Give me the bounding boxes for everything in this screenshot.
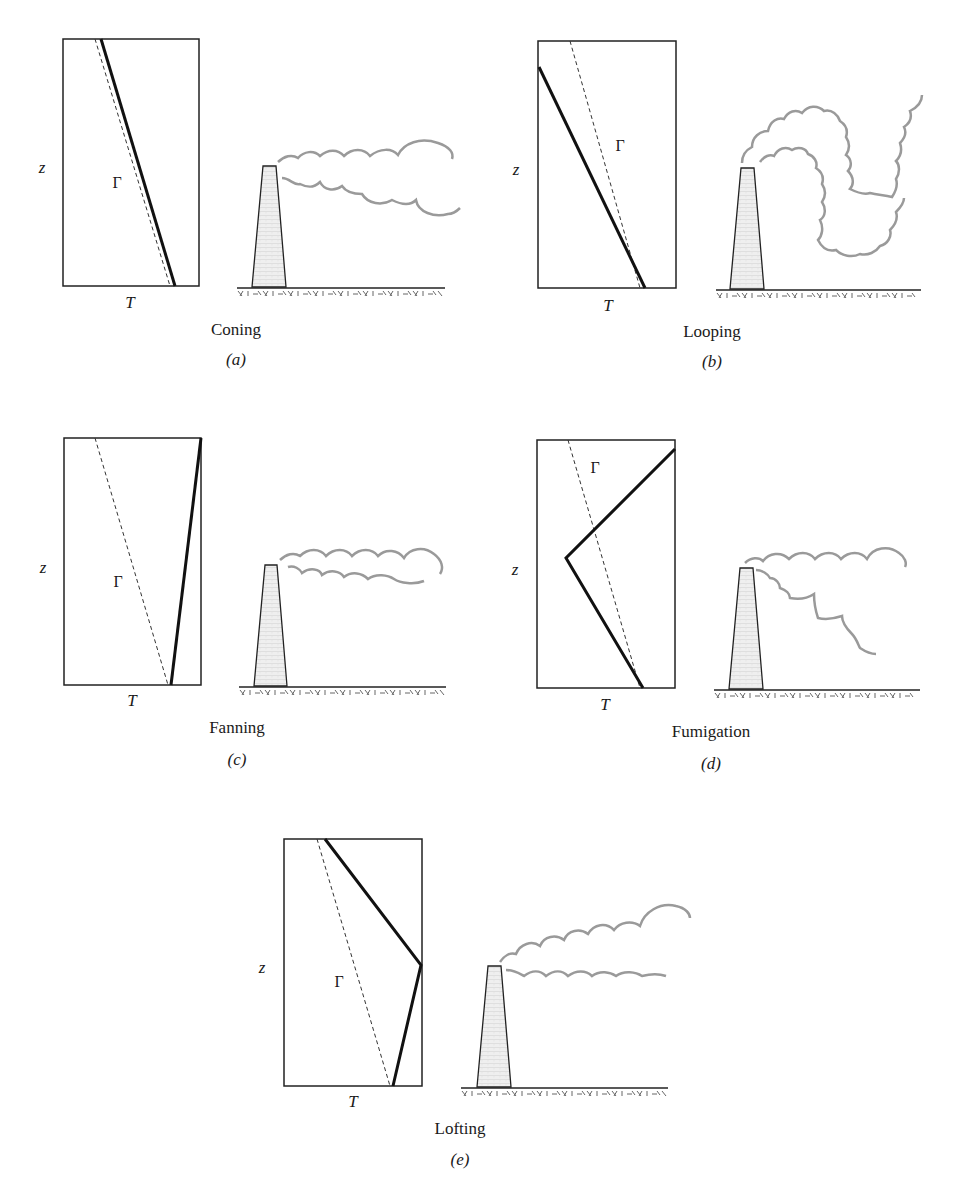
plume-lower-edge [506, 970, 666, 976]
plume-lower-edge [282, 178, 460, 215]
panel-e-lofting [284, 839, 690, 1096]
axis-label-t: T [603, 296, 612, 316]
panel-tag: (b) [702, 352, 722, 372]
panel-tag: (c) [228, 750, 247, 770]
smokestack [477, 966, 511, 1087]
plume-lower-edge [760, 148, 904, 256]
axis-label-z: z [513, 160, 520, 180]
panel-tag: (a) [226, 350, 246, 370]
smokestack-scene-e [461, 905, 690, 1096]
gamma-label: Γ [615, 137, 624, 155]
panel-tag: (e) [451, 1150, 470, 1170]
axis-label-t: T [127, 691, 136, 711]
panel-b-looping [538, 41, 922, 298]
plume-upper-edge [742, 95, 922, 197]
panel-name: Fumigation [672, 722, 750, 742]
axis-label-t: T [600, 695, 609, 715]
temperature-profile-line [101, 39, 175, 286]
gamma-label: Γ [112, 174, 121, 192]
chart-frame [538, 41, 676, 288]
adiabatic-lapse-line [95, 438, 168, 685]
adiabatic-lapse-line [570, 41, 640, 288]
smokestack-scene-c [239, 549, 446, 695]
ground-hatching [238, 291, 442, 296]
chart-frame [64, 438, 201, 685]
adiabatic-lapse-line [568, 440, 640, 688]
axis-label-z: z [40, 558, 47, 578]
plume-lower-edge [756, 570, 876, 654]
temperature-profile-line [566, 449, 675, 688]
axis-label-z: z [39, 158, 46, 178]
smokestack [252, 166, 286, 287]
panel-d-fumigation [537, 440, 920, 698]
lapse-rate-chart-c [64, 438, 201, 685]
temperature-profile-line [171, 438, 201, 685]
plume-upper-edge [745, 548, 906, 567]
smokestack-scene-b [716, 95, 922, 298]
temperature-profile-line [325, 839, 421, 1086]
panel-a-coning [63, 39, 460, 296]
panel-name: Coning [211, 320, 261, 340]
panel-name: Lofting [435, 1119, 486, 1139]
gamma-label: Γ [334, 973, 343, 991]
panel-name: Fanning [209, 718, 265, 738]
smokestack [254, 565, 287, 686]
chart-frame [537, 440, 675, 688]
lapse-rate-chart-b [538, 41, 676, 288]
panel-c-fanning [64, 438, 446, 695]
plume-behavior-figure: z Γ T Coning (a) z Γ T Looping (b) z Γ T… [0, 0, 964, 1204]
smokestack-scene-a [237, 141, 460, 296]
lapse-rate-chart-a [63, 39, 199, 286]
smokestack [730, 168, 764, 289]
axis-label-z: z [512, 560, 519, 580]
ground-hatching [240, 690, 444, 695]
adiabatic-lapse-line [95, 39, 170, 286]
lapse-rate-chart-e [284, 839, 422, 1086]
axis-label-z: z [259, 958, 266, 978]
axis-label-t: T [348, 1092, 357, 1112]
plume-upper-edge [278, 141, 452, 162]
panel-tag: (d) [701, 754, 721, 774]
chart-frame [63, 39, 199, 286]
ground-hatching [717, 293, 915, 298]
lapse-rate-chart-d [537, 440, 675, 688]
ground-hatching [715, 693, 913, 698]
figure-canvas [0, 0, 964, 1204]
panel-name: Looping [683, 322, 741, 342]
axis-label-t: T [125, 293, 134, 313]
plume-lower-edge [288, 566, 424, 583]
plume-upper-edge [500, 905, 690, 962]
temperature-profile-line [539, 67, 645, 288]
smokestack [729, 568, 763, 689]
gamma-label: Γ [113, 573, 122, 591]
smokestack-scene-d [714, 548, 920, 698]
gamma-label: Γ [590, 459, 599, 477]
ground-hatching [462, 1091, 666, 1096]
